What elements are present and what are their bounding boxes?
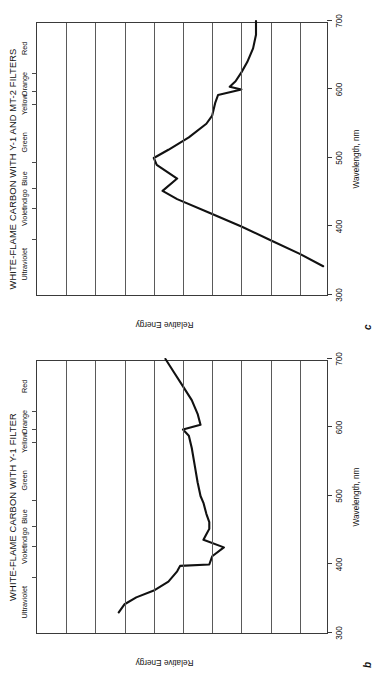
gridline xyxy=(66,361,67,633)
color-band-tick xyxy=(32,188,37,189)
wavelength-tick xyxy=(327,632,332,633)
wavelength-tick xyxy=(327,20,332,21)
figure-canvas: WHITE-FLAME CARBON WITH Y-1 AND MT-2 FIL… xyxy=(0,0,390,676)
panel-c-y-axis-title: Relative Energy xyxy=(65,320,265,329)
panel-b-plot-area: UltravioletVioletIndigoBlueGreenYellowOr… xyxy=(36,360,328,634)
color-band-tick xyxy=(32,162,37,163)
wavelength-tick-label: 700 xyxy=(335,14,344,28)
wavelength-tick xyxy=(327,564,332,565)
panel-b-letter: b xyxy=(362,662,373,668)
color-band-label-blue: Blue xyxy=(20,171,29,186)
color-band-label-red: Red xyxy=(20,42,29,55)
panel-b-x-axis-title: Wavelength, nm xyxy=(352,360,361,634)
panel-c-title: WHITE-FLAME CARBON WITH Y-1 AND MT-2 FIL… xyxy=(8,0,18,338)
spectral-curve xyxy=(119,359,224,612)
color-band-label-indigo: Indigo xyxy=(20,527,29,547)
gridline xyxy=(271,23,272,295)
color-band-label-orange: Orange xyxy=(20,72,29,96)
color-band-label-violet: Violet xyxy=(20,208,29,226)
wavelength-tick-label: 300 xyxy=(335,626,344,640)
wavelength-tick xyxy=(327,294,332,295)
wavelength-tick-label: 400 xyxy=(335,558,344,572)
panel-c: WHITE-FLAME CARBON WITH Y-1 AND MT-2 FIL… xyxy=(0,0,390,338)
color-band-label-ultraviolet: Ultraviolet xyxy=(20,586,29,618)
gridline xyxy=(95,361,96,633)
color-band-tick xyxy=(32,429,37,430)
gridline xyxy=(241,361,242,633)
gridline xyxy=(154,361,155,633)
wavelength-tick-label: 400 xyxy=(335,220,344,234)
wavelength-tick-label: 500 xyxy=(335,489,344,503)
panel-c-container: WHITE-FLAME CARBON WITH Y-1 AND MT-2 FIL… xyxy=(0,0,390,338)
color-band-tick xyxy=(32,208,37,209)
wavelength-tick-label: 300 xyxy=(335,288,344,302)
color-band-label-green: Green xyxy=(20,470,29,490)
gridline xyxy=(125,23,126,295)
color-band-tick xyxy=(32,442,37,443)
gridline xyxy=(212,23,213,295)
gridline xyxy=(271,361,272,633)
color-band-label-yellow: Yellow xyxy=(20,94,29,115)
color-band-label-orange: Orange xyxy=(20,410,29,434)
color-band-label-violet: Violet xyxy=(20,546,29,564)
panel-b-y-axis-title: Relative Energy xyxy=(65,658,265,667)
wavelength-tick xyxy=(327,226,332,227)
gridline xyxy=(95,23,96,295)
gridline xyxy=(212,361,213,633)
color-band-label-red: Red xyxy=(20,380,29,393)
gridline xyxy=(300,23,301,295)
spectral-curve xyxy=(154,21,323,266)
color-band-label-green: Green xyxy=(20,132,29,152)
wavelength-tick-label: 600 xyxy=(335,83,344,97)
gridline xyxy=(183,23,184,295)
color-band-label-yellow: Yellow xyxy=(20,432,29,453)
color-band-label-blue: Blue xyxy=(20,509,29,524)
wavelength-tick xyxy=(327,427,332,428)
gridline xyxy=(241,23,242,295)
panel-b-title: WHITE-FLAME CARBON WITH Y-1 FILTER xyxy=(8,338,18,676)
wavelength-tick xyxy=(327,157,332,158)
color-band-tick xyxy=(32,546,37,547)
color-band-tick xyxy=(32,526,37,527)
gridline xyxy=(183,361,184,633)
gridline xyxy=(66,23,67,295)
color-band-tick xyxy=(32,104,37,105)
color-band-label-indigo: Indigo xyxy=(20,189,29,209)
wavelength-tick-label: 600 xyxy=(335,421,344,435)
panel-c-plot-area: UltravioletVioletIndigoBlueGreenYellowOr… xyxy=(36,22,328,296)
gridline xyxy=(300,361,301,633)
wavelength-tick-label: 700 xyxy=(335,352,344,366)
wavelength-tick-label: 500 xyxy=(335,151,344,165)
color-band-tick xyxy=(32,239,37,240)
color-band-tick xyxy=(32,411,37,412)
color-band-tick xyxy=(32,91,37,92)
color-band-tick xyxy=(32,500,37,501)
gridline xyxy=(125,361,126,633)
panel-c-x-axis-title: Wavelength, nm xyxy=(352,22,361,296)
wavelength-tick xyxy=(327,89,332,90)
color-band-label-ultraviolet: Ultraviolet xyxy=(20,248,29,280)
panel-b: WHITE-FLAME CARBON WITH Y-1 FILTER Ultra… xyxy=(0,338,390,676)
wavelength-tick xyxy=(327,495,332,496)
panel-b-container: WHITE-FLAME CARBON WITH Y-1 FILTER Ultra… xyxy=(0,338,390,676)
color-band-tick xyxy=(32,577,37,578)
gridline xyxy=(154,23,155,295)
color-band-tick xyxy=(32,73,37,74)
panel-c-letter: c xyxy=(362,324,373,330)
wavelength-tick xyxy=(327,358,332,359)
